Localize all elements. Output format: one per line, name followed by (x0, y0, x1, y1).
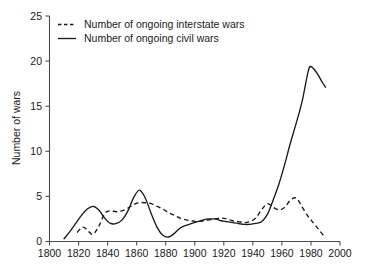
x-tick-marks (50, 242, 341, 246)
y-tick-label-15: 15 (30, 100, 42, 112)
y-axis: 0 5 10 15 20 25 Number of wars (10, 10, 50, 248)
legend-label-interstate: Number of ongoing interstate wars (84, 18, 245, 30)
x-tick-label-1900: 1900 (183, 247, 207, 259)
x-axis: 1800 1820 1840 1860 1880 1900 1920 1940 … (38, 242, 352, 260)
x-tick-label-1940: 1940 (241, 247, 265, 259)
x-tick-label-1800: 1800 (38, 247, 62, 259)
plot-series (64, 66, 325, 238)
x-tick-label-1880: 1880 (154, 247, 178, 259)
legend: Number of ongoing interstate wars Number… (58, 18, 245, 44)
x-tick-label-1920: 1920 (212, 247, 236, 259)
x-tick-label-1860: 1860 (125, 247, 149, 259)
x-tick-label-2000: 2000 (328, 247, 352, 259)
y-tick-label-25: 25 (30, 10, 42, 22)
legend-label-civil: Number of ongoing civil wars (84, 32, 219, 44)
x-tick-label-1980: 1980 (299, 247, 323, 259)
y-axis-title: Number of wars (10, 91, 22, 165)
series-interstate-wars-line (77, 198, 325, 238)
y-tick-label-5: 5 (36, 190, 42, 202)
y-tick-label-20: 20 (30, 55, 42, 67)
line-chart: 0 5 10 15 20 25 Number of wars (0, 0, 366, 271)
y-tick-label-10: 10 (30, 145, 42, 157)
x-tick-label-1820: 1820 (67, 247, 91, 259)
series-civil-wars-line (64, 66, 325, 238)
x-tick-label-1960: 1960 (270, 247, 294, 259)
x-tick-label-1840: 1840 (96, 247, 120, 259)
chart-container: 0 5 10 15 20 25 Number of wars (0, 0, 366, 271)
y-tick-label-0: 0 (36, 235, 42, 247)
y-tick-marks (46, 16, 50, 242)
